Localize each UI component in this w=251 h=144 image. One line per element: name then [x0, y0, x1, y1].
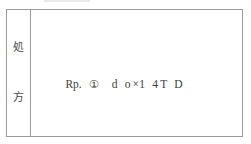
scan-artifact: [44, 0, 90, 2]
prescription-label-char-top: 処: [7, 42, 30, 54]
prescription-label-char-bottom: 方: [7, 92, 30, 104]
prescription-line: Rp.①d o×1 4T D: [47, 65, 185, 104]
prescription-label-column: 処 方: [7, 10, 31, 136]
rp-label: Rp.: [65, 78, 81, 90]
prescription-drug-name: d o: [112, 78, 133, 90]
prescription-quantity: 1 4: [139, 78, 160, 90]
prescription-item-number: ①: [89, 78, 99, 91]
prescription-table: 処 方 Rp.①d o×1 4T D: [6, 9, 243, 137]
prescription-unit: T D: [160, 78, 185, 90]
prescription-body-cell: Rp.①d o×1 4T D: [31, 10, 242, 136]
